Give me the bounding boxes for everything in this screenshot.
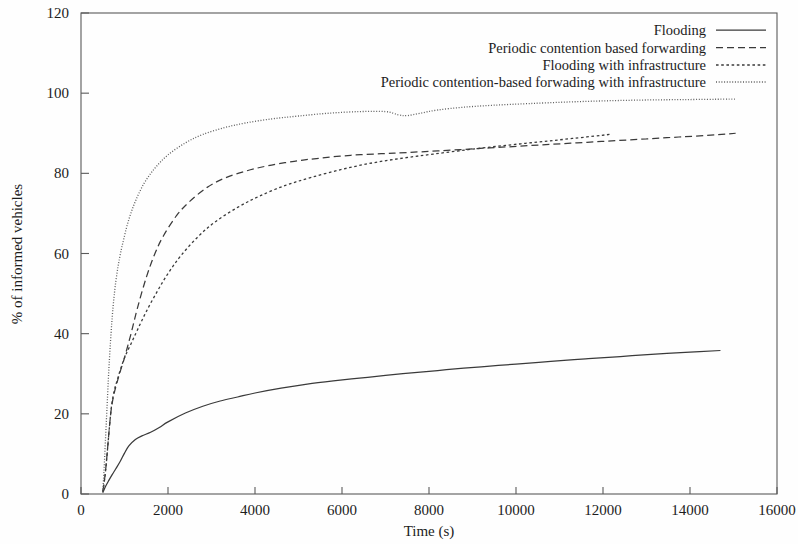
y-tick-label: 40 <box>54 326 69 342</box>
chart-figure: 0200040006000800010000120001400016000 02… <box>0 0 798 544</box>
legend-label-2: Flooding with infrastructure <box>542 57 706 73</box>
series-line-1 <box>103 133 736 492</box>
x-tick-label: 0 <box>77 502 85 518</box>
line-chart: 0200040006000800010000120001400016000 02… <box>0 0 798 544</box>
chart-legend: FloodingPeriodic contention based forwar… <box>381 22 766 90</box>
y-axis-title: % of informed vehicles <box>9 184 25 325</box>
x-tick-label: 4000 <box>240 502 270 518</box>
legend-label-3: Periodic contention-based forwading with… <box>381 74 706 90</box>
y-tick-label: 20 <box>54 406 69 422</box>
series-line-3 <box>103 99 736 492</box>
y-tick-label: 80 <box>54 165 69 181</box>
x-tick-label: 14000 <box>671 502 709 518</box>
y-tick-label: 120 <box>47 5 70 21</box>
x-tick-label: 6000 <box>327 502 357 518</box>
series-line-2 <box>103 134 610 492</box>
x-tick-label: 12000 <box>584 502 622 518</box>
x-tick-label: 8000 <box>414 502 444 518</box>
x-axis-ticks <box>81 487 777 494</box>
y-tick-label: 60 <box>54 246 69 262</box>
y-axis-ticks <box>81 13 89 494</box>
x-axis-title: Time (s) <box>404 523 455 540</box>
series-line-0 <box>103 351 721 493</box>
y-tick-label: 0 <box>62 486 70 502</box>
x-axis-tick-labels: 0200040006000800010000120001400016000 <box>77 502 796 518</box>
legend-label-0: Flooding <box>654 22 706 38</box>
x-tick-label: 16000 <box>758 502 796 518</box>
x-tick-label: 10000 <box>497 502 535 518</box>
legend-label-1: Periodic contention based forwarding <box>488 40 706 56</box>
y-tick-label: 100 <box>47 85 70 101</box>
data-series-group <box>103 99 736 493</box>
y-axis-tick-labels: 020406080100120 <box>47 5 70 502</box>
x-tick-label: 2000 <box>153 502 183 518</box>
